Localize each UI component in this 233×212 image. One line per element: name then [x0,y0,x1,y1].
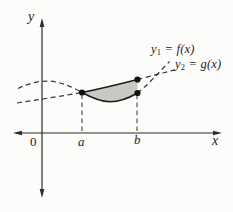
x-axis-left-arrow-icon [13,131,22,136]
g-eq-rest: = g(x) [185,57,221,71]
g-curve-right-dashed [138,70,176,80]
point-intersection-a [79,89,85,95]
f-curve-right-dashed [138,62,170,94]
f-curve-left-dashed [18,81,82,93]
f-eq-rest: = f(x) [161,42,194,56]
a-tick-label: a [78,135,85,148]
y-axis-top-arrow-icon [40,18,45,27]
g-curve-equation-label: y2 = g(x) [175,58,221,71]
y-axis-bottom-arrow-icon [40,189,45,198]
x-axis-label: x [212,134,218,148]
y-axis-label: y [28,10,34,24]
area-between-curves-figure: y x 0 a b y1 = f(x) y2 = g(x) [0,0,233,212]
point-f-at-b [134,90,140,96]
origin-label: 0 [30,135,37,148]
figure-canvas [0,0,233,212]
f-curve-equation-label: y1 = f(x) [151,43,195,56]
point-g-at-b [134,76,140,82]
b-tick-label: b [134,133,141,146]
g-curve-left-dashed [17,93,82,104]
